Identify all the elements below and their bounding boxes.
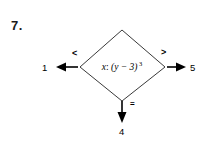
branch-label-equals: = xyxy=(130,100,135,108)
branch-label-less-than: < xyxy=(72,49,77,58)
branch-label-greater-than: > xyxy=(161,48,166,57)
decision-node-expression: x: (y − 3)3 xyxy=(102,61,142,73)
expression-body: (y − 3) xyxy=(111,62,137,72)
expression-exponent: 3 xyxy=(137,60,142,67)
arrowhead-right-icon xyxy=(176,63,186,72)
terminal-value-left: 1 xyxy=(42,63,47,73)
arrowhead-left-icon xyxy=(56,63,66,72)
diagram-page: 7. x: (y − 3)3 < > = 1 5 4 xyxy=(0,0,210,144)
terminal-value-right: 5 xyxy=(190,63,195,73)
terminal-value-down: 4 xyxy=(119,127,124,137)
arrowhead-down-icon xyxy=(118,112,127,123)
expression-separator: : xyxy=(106,62,109,72)
